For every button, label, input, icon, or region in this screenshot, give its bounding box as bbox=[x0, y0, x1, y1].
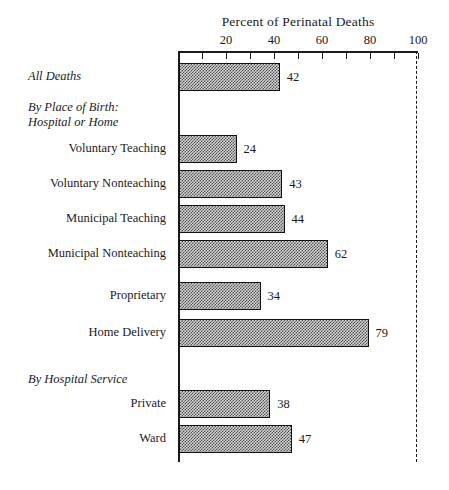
bar-municipal-nonteaching bbox=[179, 240, 328, 268]
row-label-private: Private bbox=[131, 396, 166, 411]
x-tick-label-60: 60 bbox=[316, 33, 329, 47]
bar-value-home-delivery: 79 bbox=[376, 327, 389, 339]
x-tick-10 bbox=[202, 53, 203, 59]
chart-title: Percent of Perinatal Deaths bbox=[178, 14, 418, 30]
plot-area: 422443446234793847 bbox=[178, 51, 418, 462]
x-tick-70 bbox=[346, 53, 347, 59]
x-tick-label-20: 20 bbox=[220, 33, 233, 47]
bar-voluntary-teaching bbox=[179, 135, 237, 163]
x-tick-80 bbox=[370, 53, 371, 59]
row-label-all-deaths: All Deaths bbox=[28, 69, 81, 84]
row-label-municipal-nonteaching: Municipal Nonteaching bbox=[48, 246, 166, 261]
reference-line-100 bbox=[416, 51, 417, 462]
x-tick-label-100: 100 bbox=[409, 33, 428, 47]
row-label-home-delivery: Home Delivery bbox=[89, 325, 166, 340]
x-tick-60 bbox=[322, 53, 323, 59]
row-label-voluntary-teaching: Voluntary Teaching bbox=[68, 141, 166, 156]
bar-private bbox=[179, 390, 270, 418]
bar-proprietary bbox=[179, 282, 261, 310]
group-heading-by-hospital-service: By Hospital Service bbox=[28, 372, 127, 387]
bar-value-voluntary-teaching: 24 bbox=[244, 143, 257, 155]
x-tick-50 bbox=[298, 53, 299, 59]
row-label-ward: Ward bbox=[139, 431, 166, 446]
x-tick-40 bbox=[274, 53, 275, 59]
bar-voluntary-nonteaching bbox=[179, 170, 282, 198]
bar-municipal-teaching bbox=[179, 205, 285, 233]
group-heading-hospital-or-home: Hospital or Home bbox=[28, 115, 118, 130]
x-tick-label-40: 40 bbox=[268, 33, 281, 47]
x-tick-100 bbox=[418, 53, 419, 59]
row-label-voluntary-nonteaching: Voluntary Nonteaching bbox=[50, 176, 166, 191]
row-label-proprietary: Proprietary bbox=[110, 288, 166, 303]
bar-value-municipal-nonteaching: 62 bbox=[335, 248, 348, 260]
bar-value-all-deaths: 42 bbox=[287, 71, 300, 83]
category-label-column: All DeathsBy Place of Birth:Hospital or … bbox=[0, 0, 178, 490]
bar-value-ward: 47 bbox=[299, 433, 312, 445]
bar-value-voluntary-nonteaching: 43 bbox=[289, 178, 302, 190]
bar-value-municipal-teaching: 44 bbox=[292, 213, 305, 225]
bar-ward bbox=[179, 425, 292, 453]
row-label-municipal-teaching: Municipal Teaching bbox=[66, 211, 166, 226]
x-tick-30 bbox=[250, 53, 251, 59]
x-tick-20 bbox=[226, 53, 227, 59]
x-tick-label-80: 80 bbox=[364, 33, 377, 47]
bar-all-deaths bbox=[179, 63, 280, 91]
bar-value-private: 38 bbox=[277, 398, 290, 410]
bar-value-proprietary: 34 bbox=[268, 290, 281, 302]
perinatal-deaths-bar-chart: Percent of Perinatal Deaths 20406080100 … bbox=[0, 0, 449, 490]
x-tick-90 bbox=[394, 53, 395, 59]
bar-home-delivery bbox=[179, 319, 369, 347]
group-heading-by-place-of-birth: By Place of Birth: bbox=[28, 100, 119, 115]
